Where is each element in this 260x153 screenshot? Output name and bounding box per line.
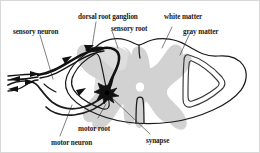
leader-white-matter bbox=[162, 27, 172, 48]
leader-gray-matter bbox=[180, 33, 190, 55]
central-canal bbox=[136, 82, 144, 91]
label-motor-neuron: motor neuron bbox=[51, 140, 92, 147]
label-synapse: synapse bbox=[146, 138, 169, 145]
label-dorsal-root-ganglion: dorsal root ganglion bbox=[78, 14, 138, 21]
label-sensory-neuron: sensory neuron bbox=[13, 29, 58, 36]
right-tract-wedge-group bbox=[183, 55, 225, 107]
motor-neuron-trunk bbox=[8, 81, 104, 109]
label-sensory-root: sensory root bbox=[111, 26, 147, 33]
leader-dorsal-root-ganglion bbox=[92, 22, 96, 47]
gray-matter-shape-group bbox=[77, 45, 192, 130]
arrowhead-motor-out-3 bbox=[10, 76, 20, 82]
motor-neuron-dendrite-2 bbox=[44, 84, 56, 92]
spinal-cord-diagram bbox=[0, 0, 260, 153]
synapse-core bbox=[105, 91, 110, 96]
arrowhead-sensory-in-2 bbox=[25, 79, 35, 85]
leader-motor-neuron bbox=[60, 105, 72, 136]
label-white-matter: white matter bbox=[164, 14, 202, 21]
label-motor-root: motor root bbox=[78, 126, 110, 133]
figure-canvas: sensory neuron dorsal root ganglion sens… bbox=[0, 0, 260, 153]
label-gray-matter: gray matter bbox=[183, 29, 218, 36]
